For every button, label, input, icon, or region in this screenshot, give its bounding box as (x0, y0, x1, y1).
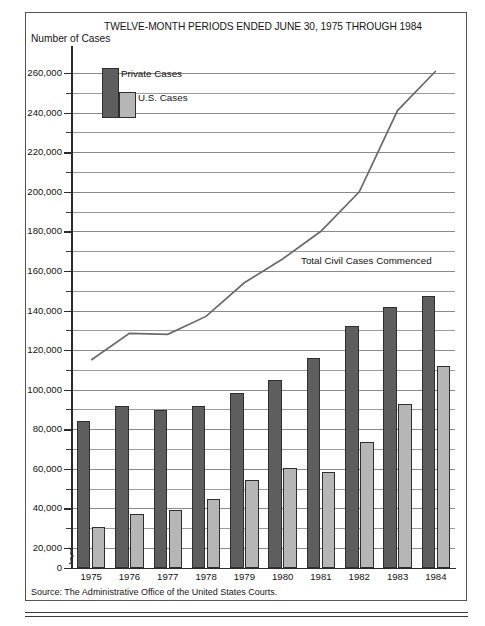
bar-private-cases (383, 307, 397, 568)
x-axis-tick-label: 1975 (71, 571, 111, 582)
x-axis-tick-label: 1977 (148, 571, 188, 582)
y-axis-tick-label: 120,000 (4, 344, 62, 355)
bar-us-cases (437, 366, 451, 568)
y-axis-tick-label: 40,000 (4, 502, 62, 513)
gridline-minor (72, 291, 455, 292)
x-axis-line (71, 568, 456, 569)
gridline-minor (72, 172, 455, 173)
bar-private-cases (115, 406, 129, 568)
gridline-major (72, 271, 455, 272)
x-axis-tick-label: 1981 (301, 571, 341, 582)
bar-us-cases (322, 472, 336, 568)
bar-private-cases (192, 406, 206, 568)
bar-us-cases (360, 442, 374, 568)
legend: Private Cases U.S. Cases (102, 68, 282, 122)
legend-swatch-us-cases (119, 92, 136, 118)
y-axis-tick-label: 140,000 (4, 305, 62, 316)
bar-us-cases (130, 514, 144, 568)
bar-us-cases (92, 527, 106, 568)
gridline-major (72, 390, 455, 391)
gridline-minor (72, 132, 455, 133)
chart-figure: TWELVE-MONTH PERIODS ENDED JUNE 30, 1975… (0, 0, 485, 626)
x-axis-tick-label: 1983 (378, 571, 418, 582)
bar-us-cases (283, 468, 297, 568)
y-axis-tick-label: 100,000 (4, 384, 62, 395)
gridline-minor (72, 330, 455, 331)
page-title: TWELVE-MONTH PERIODS ENDED JUNE 30, 1975… (104, 21, 464, 32)
x-axis-tick-label: 1982 (339, 571, 379, 582)
bar-us-cases (245, 480, 259, 568)
legend-swatch-private-cases (102, 68, 119, 118)
gridline-minor (72, 251, 455, 252)
y-axis-tick-label: 160,000 (4, 265, 62, 276)
y-axis-tick-label: 220,000 (4, 146, 62, 157)
x-axis-tick-label: 1980 (263, 571, 303, 582)
y-axis-tick-label: 180,000 (4, 225, 62, 236)
legend-label-private-cases: Private Cases (121, 68, 182, 79)
y-axis-tick-label: 240,000 (4, 107, 62, 118)
gridline-major (72, 152, 455, 153)
line-series-label: Total Civil Cases Commenced (301, 255, 432, 266)
x-axis-tick-label: 1976 (109, 571, 149, 582)
bar-us-cases (207, 499, 221, 568)
gridline-major (72, 350, 455, 351)
y-axis-tick-label: 200,000 (4, 186, 62, 197)
bar-private-cases (345, 326, 359, 568)
bar-private-cases (77, 421, 91, 568)
gridline-minor (72, 212, 455, 213)
gridline-major (72, 231, 455, 232)
y-axis-tick-label: 60,000 (4, 463, 62, 474)
gridline-major (72, 192, 455, 193)
bar-private-cases (154, 410, 168, 568)
y-axis-tick-label: 0 (4, 562, 62, 573)
bar-private-cases (230, 393, 244, 568)
bar-private-cases (307, 358, 321, 568)
bottom-rule-secondary (25, 616, 468, 617)
gridline-major (72, 311, 455, 312)
y-axis-tick-label: 80,000 (4, 423, 62, 434)
y-axis-line (71, 46, 73, 569)
x-axis-tick-label: 1984 (416, 571, 456, 582)
bar-us-cases (398, 404, 412, 568)
bar-private-cases (422, 296, 436, 568)
gridline-minor (72, 370, 455, 371)
bar-us-cases (169, 510, 183, 568)
x-axis-tick-label: 1979 (224, 571, 264, 582)
legend-label-us-cases: U.S. Cases (138, 92, 188, 103)
y-axis-tick-label: 260,000 (4, 67, 62, 78)
y-axis-tick-label: 20,000 (4, 542, 62, 553)
x-axis-tick-label: 1978 (186, 571, 226, 582)
y-axis-title: Number of Cases (31, 33, 110, 44)
source-note: Source: The Administrative Office of the… (31, 587, 277, 597)
bottom-rule (25, 612, 468, 613)
bar-private-cases (268, 380, 282, 568)
